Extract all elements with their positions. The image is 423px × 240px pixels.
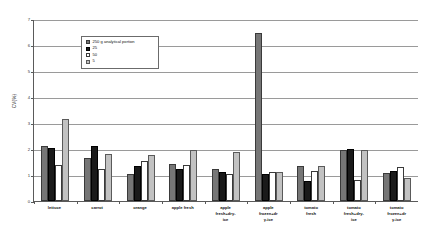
bar [176, 169, 183, 201]
x-axis-tick-mark [162, 201, 163, 204]
bar [141, 161, 148, 201]
legend-swatch [86, 47, 90, 51]
bar [105, 154, 112, 201]
bar [212, 169, 219, 201]
x-axis-label: applefresh+dry-ice [204, 205, 247, 223]
legend-label: 5 [93, 59, 95, 63]
x-axis-label: apple fresh [161, 205, 204, 223]
x-axis-label: tomatofresh+dry-ice [332, 205, 375, 223]
x-axis-tick-mark [77, 201, 78, 204]
x-axis-labels: lettucecarrotorangeapple freshapplefresh… [33, 205, 418, 223]
bar-group [34, 20, 77, 201]
bar [262, 174, 269, 201]
bar [41, 146, 48, 201]
x-axis-tick-mark [247, 201, 248, 204]
bar-chart: CV(%) 01234567 lettucecarrotorangeapple … [0, 0, 423, 240]
chart-legend: 250 g analytical portion25505 [81, 36, 159, 69]
x-axis-tick-mark [290, 201, 291, 204]
bar [383, 173, 390, 201]
bar [183, 165, 190, 201]
x-axis-label: tomatofresh [290, 205, 333, 223]
x-axis-tick-mark [205, 201, 206, 204]
bar-group [205, 20, 248, 201]
bar [91, 146, 98, 201]
bar-group [162, 20, 205, 201]
x-axis-label: orange [119, 205, 162, 223]
bar [297, 166, 304, 201]
x-axis-label: carrot [76, 205, 119, 223]
y-axis-tick-label: 2 [28, 148, 30, 152]
y-axis-title: CV(%) [12, 94, 17, 109]
bar [347, 149, 354, 201]
legend-label: 50 [93, 53, 98, 57]
bar-group [375, 20, 418, 201]
y-axis-tick-label: 7 [28, 18, 30, 22]
legend-swatch [86, 53, 90, 57]
bar [340, 150, 347, 201]
x-axis-tick-mark [333, 201, 334, 204]
legend-swatch [86, 60, 90, 64]
bar [354, 180, 361, 201]
bar [233, 152, 240, 201]
x-axis-label: applefrozen+dry-ice [247, 205, 290, 223]
bar [219, 172, 226, 201]
bar [276, 172, 283, 201]
y-axis-tick-label: 1 [28, 174, 30, 178]
bar-group [290, 20, 333, 201]
x-axis-tick-mark [375, 201, 376, 204]
bar-group [333, 20, 376, 201]
bar [311, 171, 318, 201]
y-axis-tick-label: 6 [28, 44, 30, 48]
bar [148, 155, 155, 201]
bar [62, 119, 69, 201]
bar [269, 172, 276, 201]
x-axis-label: tomatofrozen+dry-ice [375, 205, 418, 223]
bar [404, 178, 411, 201]
x-axis-tick-mark [119, 201, 120, 204]
legend-item: 5 [86, 59, 154, 63]
bar [134, 166, 141, 201]
bar [169, 164, 176, 201]
bar [190, 150, 197, 201]
bar [361, 150, 368, 201]
y-axis-tick-label: 0 [28, 200, 30, 204]
bar-group [247, 20, 290, 201]
bar [397, 167, 404, 201]
legend-item: 50 [86, 53, 154, 57]
legend-label: 25 [93, 46, 98, 50]
y-axis-tick-label: 3 [28, 122, 30, 126]
bar [304, 181, 311, 201]
y-axis-tick-label: 4 [28, 96, 30, 100]
bar [127, 174, 134, 201]
bar [318, 166, 325, 201]
y-axis-tick-label: 5 [28, 70, 30, 74]
bar [48, 148, 55, 201]
legend-item: 250 g analytical portion [86, 40, 154, 44]
x-axis-tick-mark [34, 201, 35, 204]
legend-swatch [86, 40, 90, 44]
bar [390, 171, 397, 201]
bar [55, 165, 62, 201]
bar [255, 33, 262, 201]
legend-item: 25 [86, 46, 154, 50]
bar [226, 174, 233, 201]
bar [84, 158, 91, 201]
bar [98, 169, 105, 202]
legend-label: 250 g analytical portion [93, 40, 135, 44]
x-axis-label: lettuce [33, 205, 76, 223]
